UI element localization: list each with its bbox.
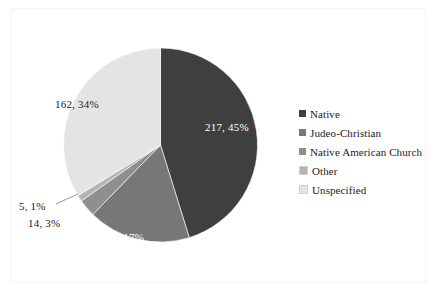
slice-label-native: 217, 45% (205, 121, 249, 133)
legend-label-judeo-christian: Judeo-Christian (310, 127, 381, 139)
legend-label-other: Other (312, 165, 338, 177)
legend-label-native: Native (310, 108, 340, 120)
legend-swatch-icon-other (299, 166, 308, 175)
slice-label-other: 5, 1% (19, 200, 46, 212)
chart-legend: Native Judeo-Christian Native American C… (299, 104, 431, 199)
pie-chart-figure: 217, 45% 82, 17% 14, 3% 5, 1% 162, 34% N… (0, 0, 439, 292)
legend-item-native-american-church[interactable]: Native American Church (299, 142, 431, 161)
legend-swatch-icon-native-american-church (299, 148, 306, 155)
legend-label-native-american-church: Native American Church (310, 146, 422, 158)
pie-slices (63, 48, 257, 242)
slice-label-unspecified: 162, 34% (55, 98, 99, 110)
legend-item-native[interactable]: Native (299, 104, 431, 123)
legend-item-unspecified[interactable]: Unspecified (299, 180, 431, 199)
legend-swatch-icon-unspecified (299, 185, 308, 194)
legend-swatch-icon-native (299, 110, 306, 117)
slice-label-native-american-church: 14, 3% (28, 217, 60, 229)
leader-line-other (56, 194, 78, 204)
legend-item-other[interactable]: Other (299, 161, 431, 180)
legend-item-judeo-christian[interactable]: Judeo-Christian (299, 123, 431, 142)
legend-label-unspecified: Unspecified (312, 184, 366, 196)
leader-lines (56, 194, 78, 204)
legend-swatch-icon-judeo-christian (299, 129, 306, 136)
slice-label-judeo-christian: 82, 17% (106, 231, 144, 243)
